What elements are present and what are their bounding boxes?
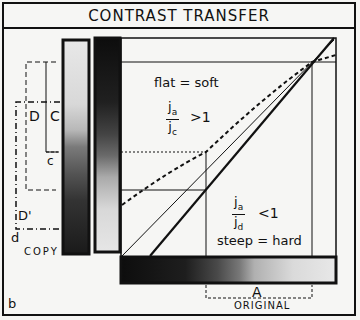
- label-c: c: [47, 154, 54, 168]
- ratio-ja-jc: ja jc: [166, 100, 179, 138]
- label-flat-soft: flat = soft: [154, 75, 219, 90]
- label-A: A: [252, 284, 262, 300]
- label-d: d: [11, 230, 19, 245]
- bracket-C: [46, 62, 58, 152]
- copy-grey-scale: [63, 40, 89, 254]
- contrast-transfer-diagram: [0, 0, 360, 320]
- label-copy: COPY: [24, 246, 59, 257]
- ratio2-relation: <1: [258, 205, 279, 221]
- ratio1-relation: >1: [190, 109, 211, 125]
- bracket-D: [26, 62, 56, 190]
- label-C: C: [50, 108, 60, 124]
- label-original: ORIGINAL: [234, 300, 290, 311]
- label-D-prime: D': [18, 208, 32, 223]
- identity-line: [122, 40, 334, 256]
- ratio-ja-jd: ja jd: [232, 195, 245, 233]
- reference-grey-scale: [95, 38, 120, 252]
- original-grey-scale: [121, 257, 336, 283]
- label-D: D: [29, 108, 40, 124]
- label-steep-hard: steep = hard: [217, 233, 302, 248]
- panel-label: b: [8, 296, 16, 311]
